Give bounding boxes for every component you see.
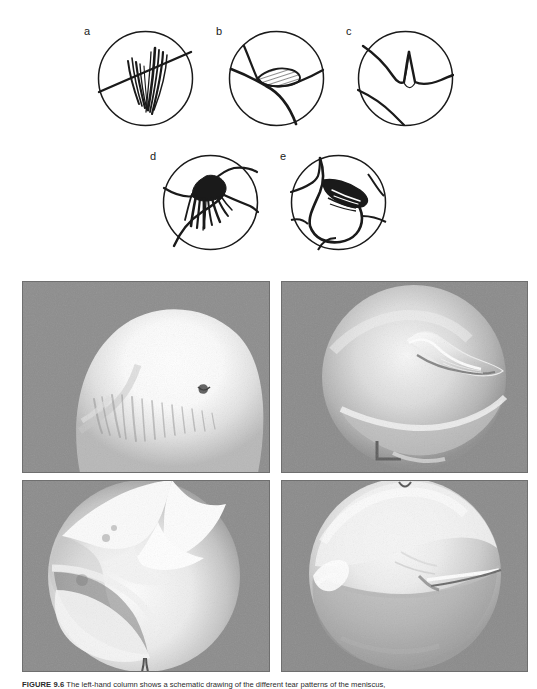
photo-bottom-left <box>22 480 270 672</box>
arthroscopic-photo-grid <box>22 281 528 672</box>
figure-number: FIGURE 9.6 <box>22 680 64 689</box>
figure-caption: FIGURE 9.6 The left-hand column shows a … <box>22 680 528 689</box>
diagram-label-b: b <box>216 26 222 37</box>
diagram-label-a: a <box>84 26 90 37</box>
diagram-circle-d <box>162 154 259 251</box>
photo-top-right <box>281 281 528 473</box>
figure-page: a b <box>0 0 537 689</box>
diagram-circle-b <box>228 30 325 127</box>
schematic-diagram-panel: a b <box>0 0 537 268</box>
diagram-label-d: d <box>150 151 156 162</box>
figure-caption-text: The left-hand column shows a schematic d… <box>66 680 385 689</box>
diagram-circle-a <box>97 30 194 127</box>
diagram-circle-e <box>290 154 387 251</box>
diagram-circle-c <box>357 30 454 127</box>
photo-top-left <box>22 281 270 473</box>
photo-bottom-right <box>281 480 528 672</box>
diagram-label-e: e <box>280 151 286 162</box>
diagram-label-c: c <box>346 26 352 37</box>
